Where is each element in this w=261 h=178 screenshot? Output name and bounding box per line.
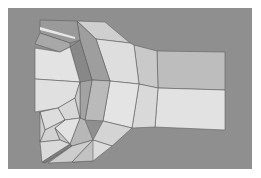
mesh-render — [0, 0, 261, 178]
arm-bottom-panel — [155, 88, 225, 130]
arm-top-panel — [157, 51, 225, 90]
